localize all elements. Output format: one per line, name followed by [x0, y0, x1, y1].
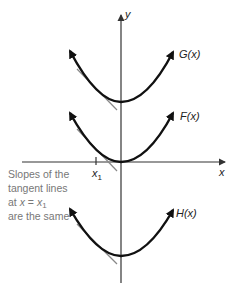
curve-g-left	[70, 51, 121, 102]
curve-h-right	[121, 210, 173, 256]
diagram-canvas: y x x1 G(x) F(x) H(x) Slopes of the tang…	[0, 0, 237, 297]
curve-h-label: H(x)	[176, 207, 197, 219]
curve-f-label: F(x)	[180, 110, 200, 122]
curve-h: H(x)	[70, 207, 197, 264]
curve-f-right	[121, 113, 173, 162]
slope-annotation: Slopes of the tangent lines at x = x1 ar…	[8, 168, 69, 222]
annotation-line-1: Slopes of the	[8, 168, 69, 180]
curve-f-left	[70, 113, 121, 162]
annotation-line-4: are the same	[8, 210, 69, 222]
curve-h-left	[70, 209, 121, 256]
curve-g-right	[121, 52, 173, 102]
x-axis-label: x	[218, 166, 225, 178]
curve-g: G(x)	[70, 48, 201, 110]
annotation-line-2: tangent lines	[8, 182, 68, 194]
y-axis-label: y	[124, 8, 132, 20]
annotation-line-3: at x = x1	[8, 196, 47, 210]
x1-tick-label: x1	[91, 167, 103, 182]
curve-g-label: G(x)	[179, 48, 201, 60]
